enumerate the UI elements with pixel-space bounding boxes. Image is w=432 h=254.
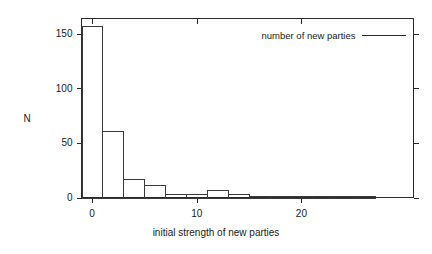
axis-tick-labels: 01020050100150 [56,28,308,218]
y-axis-title: N [23,113,30,124]
histogram-bar [124,180,145,199]
plot-frame [82,19,414,198]
histogram-chart: 01020050100150 number of new parties ini… [0,0,432,254]
chart-page: 01020050100150 number of new parties ini… [0,0,432,254]
y-tick-label: 50 [61,137,73,148]
y-tick-label: 150 [56,28,73,39]
chart-legend: number of new parties [262,30,406,41]
axis-ticks [77,19,419,203]
x-tick-label: 20 [296,208,308,219]
x-tick-label: 0 [89,208,95,219]
x-tick-label: 10 [191,208,203,219]
legend-label: number of new parties [262,30,356,41]
y-tick-label: 100 [56,83,73,94]
histogram-bar [145,186,166,199]
histogram-bar [103,132,124,199]
y-tick-label: 0 [67,192,73,203]
histogram-bars [83,27,376,199]
histogram-bar [83,27,103,199]
x-axis-title: initial strength of new parties [153,227,280,238]
